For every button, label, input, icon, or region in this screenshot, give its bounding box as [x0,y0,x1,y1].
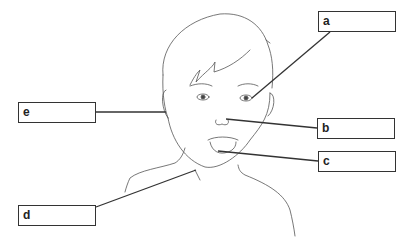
pointer-b [226,119,317,128]
label-box-b[interactable]: b [317,118,395,139]
label-letter-b: b [322,121,329,135]
label-letter-d: d [23,208,30,222]
hair-outline [163,14,273,88]
fringe [190,50,250,85]
label-box-d[interactable]: d [18,205,96,226]
label-box-e[interactable]: e [18,102,96,123]
pointer-a [252,32,330,98]
nose [215,120,228,125]
label-letter-a: a [323,14,330,28]
pointer-d [96,170,196,207]
pointer-c [218,151,318,161]
face-outline [168,93,270,167]
label-box-c[interactable]: c [318,151,396,172]
shoulder-right [238,165,295,236]
label-box-a[interactable]: a [318,11,396,32]
label-letter-e: e [23,105,30,119]
label-letter-c: c [323,154,330,168]
